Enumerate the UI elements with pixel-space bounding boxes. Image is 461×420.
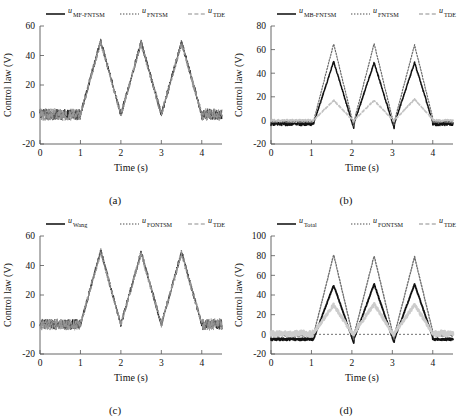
y-tick-label: 0 [261, 330, 266, 340]
x-tick-label: 1 [78, 148, 83, 158]
legend-subscript: MB-FNTSM [304, 11, 337, 18]
y-tick-label: 60 [257, 45, 267, 55]
legend-symbol: u [208, 216, 212, 225]
y-tick-label: 0 [30, 320, 35, 330]
y-tick-label: -20 [253, 139, 266, 149]
y-tick-label: -20 [22, 349, 35, 359]
legend-symbol: u [439, 216, 443, 225]
legend-symbol: u [142, 6, 146, 15]
legend-subscript: TDE [213, 221, 225, 228]
x-tick-label: 4 [430, 148, 435, 158]
legend-entry: uTotal [299, 216, 317, 228]
legend-subscript: FONTSM [147, 221, 173, 228]
legend-subscript: FONTSM [378, 221, 404, 228]
series-line [271, 255, 453, 340]
y-axis-title: Control law (V) [2, 53, 14, 117]
legend-symbol: u [68, 216, 72, 225]
legend-subscript: Wang [73, 221, 87, 228]
plot-area: -20020406001234Time (s)Control law (V)uW… [0, 210, 230, 388]
series-line [40, 251, 222, 331]
legend-entry: uFONTSM [373, 216, 404, 228]
x-axis-title: Time (s) [114, 162, 148, 174]
x-axis-title: Time (s) [345, 162, 379, 174]
legend-entry: uTDE [208, 6, 225, 18]
x-tick-label: 0 [269, 148, 274, 158]
x-tick-label: 4 [430, 358, 435, 368]
x-axis-title: Time (s) [114, 372, 148, 384]
y-tick-label: 40 [257, 69, 267, 79]
series-line [271, 99, 453, 122]
x-tick-label: 1 [309, 358, 314, 368]
y-axis-title: Control law (V) [233, 53, 245, 117]
y-axis-title: Control law (V) [2, 263, 14, 327]
x-tick-label: 4 [199, 358, 204, 368]
panel-caption: (c) [0, 404, 230, 416]
x-tick-label: 2 [119, 358, 124, 368]
panel-a: -20020406001234Time (s)Control law (V)uM… [0, 0, 230, 210]
y-tick-label: -20 [22, 139, 35, 149]
legend-subscript: TDE [444, 11, 456, 18]
plot-area: -2002040608010001234Time (s)Control law … [231, 210, 461, 388]
panel-c: -20020406001234Time (s)Control law (V)uW… [0, 210, 230, 420]
legend-entry: uWang [68, 216, 87, 228]
legend-entry: uFNTSM [142, 6, 168, 18]
y-tick-label: 0 [261, 116, 266, 126]
x-tick-label: 3 [159, 148, 164, 158]
legend-subscript: TDE [444, 221, 456, 228]
x-tick-label: 0 [38, 358, 43, 368]
legend-symbol: u [68, 6, 72, 15]
legend-entry: uMB-FNTSM [299, 6, 337, 18]
x-axis-title: Time (s) [345, 372, 379, 384]
y-tick-label: 80 [257, 21, 267, 31]
legend-entry: uTDE [439, 216, 456, 228]
y-tick-label: 0 [30, 110, 35, 120]
y-tick-label: 100 [252, 231, 267, 241]
legend-entry: uTDE [208, 216, 225, 228]
y-tick-label: 20 [257, 310, 267, 320]
legend-subscript: FNTSM [147, 11, 168, 18]
x-tick-label: 2 [350, 148, 355, 158]
x-tick-label: 3 [159, 358, 164, 368]
legend-entry: uFONTSM [142, 216, 173, 228]
legend-symbol: u [142, 216, 146, 225]
y-tick-label: 80 [257, 251, 267, 261]
x-tick-label: 4 [199, 148, 204, 158]
series-line [271, 44, 453, 126]
plot-area: -20020406001234Time (s)Control law (V)uM… [0, 0, 230, 178]
panel-d: -2002040608010001234Time (s)Control law … [231, 210, 461, 420]
y-tick-label: 20 [26, 80, 36, 90]
y-tick-label: 40 [257, 290, 267, 300]
x-tick-label: 2 [119, 148, 124, 158]
x-tick-label: 1 [78, 358, 83, 368]
y-tick-label: 20 [257, 92, 267, 102]
y-tick-label: -20 [253, 349, 266, 359]
y-tick-label: 20 [26, 290, 36, 300]
y-tick-label: 60 [26, 21, 36, 31]
y-tick-label: 40 [26, 51, 36, 61]
legend-symbol: u [208, 6, 212, 15]
legend-subscript: MF-FNTSM [73, 11, 105, 18]
legend-subscript: FNTSM [378, 11, 399, 18]
y-tick-label: 60 [257, 271, 267, 281]
legend-entry: uFNTSM [373, 6, 399, 18]
plot-area: -2002040608001234Time (s)Control law (V)… [231, 0, 461, 178]
figure-control-law-comparison: -20020406001234Time (s)Control law (V)uM… [0, 0, 461, 420]
legend-symbol: u [439, 6, 443, 15]
legend-symbol: u [299, 216, 303, 225]
x-tick-label: 0 [38, 148, 43, 158]
panel-caption: (a) [0, 194, 230, 206]
x-tick-label: 0 [269, 358, 274, 368]
series-line [271, 62, 453, 129]
legend-symbol: u [299, 6, 303, 15]
y-tick-label: 40 [26, 261, 36, 271]
x-tick-label: 2 [350, 358, 355, 368]
legend-subscript: TDE [213, 11, 225, 18]
series-line [271, 303, 453, 336]
legend-entry: uTDE [439, 6, 456, 18]
legend-symbol: u [373, 216, 377, 225]
x-tick-label: 3 [390, 148, 395, 158]
x-tick-label: 1 [309, 148, 314, 158]
y-axis-title: Control law (V) [233, 263, 245, 327]
panel-caption: (d) [231, 404, 461, 416]
y-tick-label: 60 [26, 231, 36, 241]
